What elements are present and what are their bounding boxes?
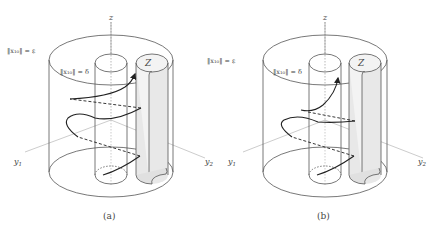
outer-cylinder-label: ‖x₁₀‖ = ε (7, 47, 36, 55)
region-z-label: Z (357, 58, 365, 68)
caption-a: (a) (103, 211, 115, 221)
y2-axis-label: y2 (204, 157, 214, 167)
region-z-label: Z (144, 58, 152, 68)
z-axis-label: z (108, 13, 114, 22)
y2-axis-label: y2 (417, 157, 427, 167)
y1-axis-label: y1 (13, 157, 22, 167)
z-axis-label: z (322, 13, 328, 22)
panel-b: Z z ‖x₁₀‖ = ε ‖x₁₀‖ = δ y1 y2 (b) (207, 13, 427, 221)
trajectory (281, 78, 355, 175)
figure: Z z ‖x₁₀‖ = ε ‖x₁₀‖ = δ y1 y2 (a) (0, 0, 442, 231)
caption-b: (b) (317, 211, 330, 221)
outer-cylinder-label: ‖x₁₀‖ = ε (207, 57, 236, 65)
y1-axis-label: y1 (227, 157, 236, 167)
trajectory (66, 74, 141, 175)
inner-cylinder-label: ‖x₁₀‖ = δ (60, 68, 89, 76)
panel-a: Z z ‖x₁₀‖ = ε ‖x₁₀‖ = δ y1 y2 (a) (7, 13, 214, 221)
inner-cylinder-label: ‖x₁₀‖ = δ (273, 68, 302, 76)
region-z: Z (136, 54, 168, 184)
region-z: Z (349, 54, 381, 184)
